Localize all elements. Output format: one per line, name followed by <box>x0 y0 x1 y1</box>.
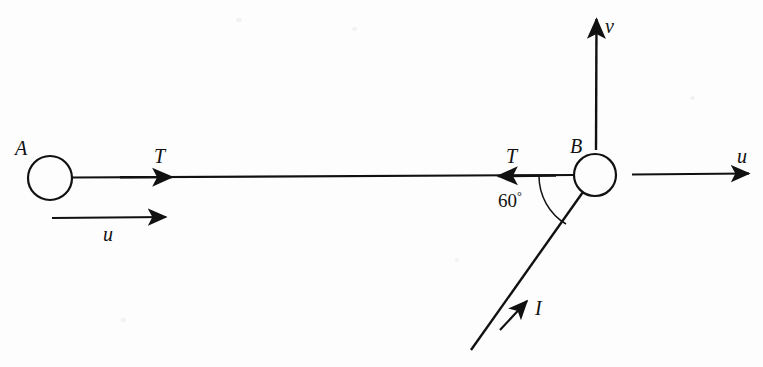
degree-symbol: ° <box>517 189 522 203</box>
label-ball-a: A <box>15 138 27 158</box>
diagram-canvas <box>0 0 763 367</box>
angle-value: 60 <box>498 190 517 211</box>
velocity-arrow-u-left <box>52 217 166 218</box>
label-velocity-u-left: u <box>103 224 113 244</box>
label-velocity-v: v <box>605 16 614 36</box>
label-tension-b: T <box>506 146 517 166</box>
ball-a <box>28 156 72 200</box>
ball-b <box>574 154 616 196</box>
physics-diagram: A B T T u u v I 60° <box>0 0 763 367</box>
label-velocity-u-right: u <box>737 146 747 166</box>
label-impulse-i: I <box>535 298 542 318</box>
label-tension-a: T <box>154 146 165 166</box>
label-angle-60: 60° <box>498 190 522 210</box>
velocity-arrow-u-right <box>632 174 749 175</box>
label-ball-b: B <box>570 136 582 156</box>
angle-arc <box>539 176 566 224</box>
velocity-arrow-v <box>596 19 597 150</box>
impulse-line <box>471 192 583 350</box>
